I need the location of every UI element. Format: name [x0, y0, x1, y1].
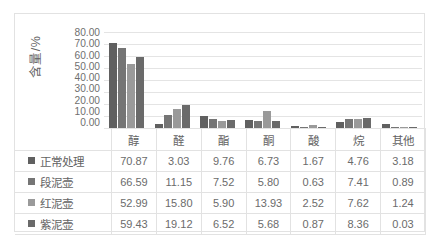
table-cell: 1.24	[381, 193, 426, 214]
legend-item-正常处理[interactable]: 正常处理	[15, 151, 112, 172]
plot-canvas	[104, 32, 422, 128]
column-header-4: 酸	[291, 129, 336, 151]
table-header-row: 醇醛酯酮酸烷其他	[15, 129, 426, 151]
table-cell: 19.12	[156, 214, 201, 235]
bar	[118, 48, 126, 128]
table-cell: 8.36	[336, 214, 381, 235]
data-table: 醇醛酯酮酸烷其他正常处理70.873.039.766.731.674.763.1…	[15, 128, 426, 235]
legend-swatch-icon	[28, 157, 35, 164]
y-tick-label: 50.00	[49, 62, 100, 72]
bar	[345, 119, 353, 128]
y-tick-label: 30.00	[49, 84, 100, 94]
table-cell: 0.89	[381, 172, 426, 193]
table-cell: 70.87	[112, 151, 157, 172]
column-header-1: 醛	[156, 129, 201, 151]
table-cell: 0.03	[381, 214, 426, 235]
table-row: 紫泥壶59.4319.126.525.680.878.360.03	[15, 214, 426, 235]
table-cell: 3.18	[381, 151, 426, 172]
table-cell: 66.59	[112, 172, 157, 193]
y-axis-title: 含量/%	[25, 22, 43, 92]
y-tick-label: 60.00	[49, 51, 100, 61]
legend-swatch-icon	[28, 199, 35, 206]
table-cell: 11.15	[156, 172, 201, 193]
bar	[363, 118, 371, 128]
y-tick-label: 40.00	[49, 73, 100, 83]
column-header-3: 酮	[246, 129, 291, 151]
table-cell: 4.76	[336, 151, 381, 172]
column-header-2: 酯	[201, 129, 246, 151]
table-cell: 52.99	[112, 193, 157, 214]
legend-swatch-icon	[28, 178, 35, 185]
y-tick-label: 20.00	[49, 96, 100, 106]
legend-label: 段泥壶	[40, 177, 73, 189]
legend-label: 紫泥壶	[40, 219, 73, 231]
bar	[218, 121, 226, 128]
bar	[182, 105, 190, 128]
y-tick-label: 0.00	[49, 118, 100, 128]
bar	[127, 64, 135, 128]
table-cell: 3.03	[156, 151, 201, 172]
bar	[109, 43, 117, 128]
bar	[245, 120, 253, 128]
bar	[263, 111, 271, 128]
table-cell: 15.80	[156, 193, 201, 214]
bar	[200, 116, 208, 128]
bar	[136, 57, 144, 128]
y-axis-tick-labels: 80.00 70.00 60.00 50.00 40.00 30.00 20.0…	[49, 28, 100, 128]
column-header-6: 其他	[381, 129, 426, 151]
y-tick-label: 80.00	[49, 28, 100, 38]
bar-group-酮	[240, 32, 285, 128]
table-row: 段泥壶66.5911.157.525.800.637.410.89	[15, 172, 426, 193]
legend-swatch-icon	[28, 220, 35, 227]
bar-group-酸	[286, 32, 331, 128]
legend-label: 红泥壶	[40, 198, 73, 210]
table-corner-cell	[15, 129, 112, 151]
table-cell: 6.52	[201, 214, 246, 235]
table-cell: 59.43	[112, 214, 157, 235]
table-cell: 7.41	[336, 172, 381, 193]
bar-group-醛	[149, 32, 194, 128]
table-cell: 2.52	[291, 193, 336, 214]
bar-group-其他	[377, 32, 422, 128]
table-cell: 13.93	[246, 193, 291, 214]
bar	[164, 115, 172, 128]
table-cell: 7.52	[201, 172, 246, 193]
bars-layer	[104, 32, 422, 128]
bar	[209, 119, 217, 128]
bar	[227, 120, 235, 128]
y-tick-label: 70.00	[49, 39, 100, 49]
bar-group-酯	[195, 32, 240, 128]
legend-item-红泥壶[interactable]: 红泥壶	[15, 193, 112, 214]
column-header-0: 醇	[112, 129, 157, 151]
legend-item-段泥壶[interactable]: 段泥壶	[15, 172, 112, 193]
table-cell: 5.68	[246, 214, 291, 235]
table-cell: 7.62	[336, 193, 381, 214]
column-header-5: 烷	[336, 129, 381, 151]
table-cell: 5.90	[201, 193, 246, 214]
bar-group-醇	[104, 32, 149, 128]
legend-item-紫泥壶[interactable]: 紫泥壶	[15, 214, 112, 235]
table-cell: 0.87	[291, 214, 336, 235]
y-tick-label: 10.00	[49, 107, 100, 117]
plot-region: 含量/% 80.00 70.00 60.00 50.00 40.00 30.00…	[15, 14, 426, 134]
legend-label: 正常处理	[40, 156, 84, 168]
bar	[173, 109, 181, 128]
table-row: 红泥壶52.9915.805.9013.932.527.621.24	[15, 193, 426, 214]
bar-group-烷	[331, 32, 376, 128]
table-cell: 5.80	[246, 172, 291, 193]
table-cell: 9.76	[201, 151, 246, 172]
table-cell: 1.67	[291, 151, 336, 172]
bar	[272, 121, 280, 128]
bar	[354, 119, 362, 128]
chart-frame: 含量/% 80.00 70.00 60.00 50.00 40.00 30.00…	[14, 13, 425, 232]
table-row: 正常处理70.873.039.766.731.674.763.18	[15, 151, 426, 172]
table-cell: 6.73	[246, 151, 291, 172]
table-cell: 0.63	[291, 172, 336, 193]
bar	[254, 121, 262, 128]
